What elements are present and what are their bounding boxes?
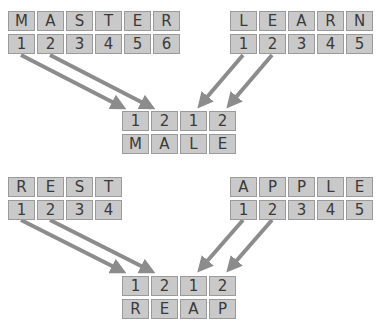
letter-cell: A bbox=[180, 299, 207, 319]
number-cell: 6 bbox=[153, 34, 180, 54]
reap-letters: R E A P bbox=[122, 299, 236, 319]
number-cell: 4 bbox=[95, 200, 122, 220]
number-cell: 2 bbox=[37, 34, 64, 54]
letter-cell: E bbox=[209, 134, 236, 154]
letter-cell: E bbox=[124, 11, 151, 31]
number-cell: 3 bbox=[288, 34, 315, 54]
number-cell: 1 bbox=[230, 34, 257, 54]
learn-letters: L E A R N bbox=[230, 11, 373, 31]
number-cell: 5 bbox=[346, 200, 373, 220]
letter-cell: E bbox=[37, 177, 64, 197]
arrow-master-1 bbox=[21, 55, 120, 106]
letter-cell: L bbox=[317, 177, 344, 197]
number-cell: 3 bbox=[66, 34, 93, 54]
apple-letters: A P P L E bbox=[230, 177, 373, 197]
number-cell: 3 bbox=[66, 200, 93, 220]
number-cell: 4 bbox=[317, 34, 344, 54]
letter-cell: E bbox=[346, 177, 373, 197]
master-numbers: 1 2 3 4 5 6 bbox=[8, 34, 180, 54]
letter-cell: L bbox=[230, 11, 257, 31]
letter-cell: A bbox=[37, 11, 64, 31]
number-cell: 1 bbox=[180, 111, 207, 131]
letter-cell: R bbox=[122, 299, 149, 319]
rest-numbers: 1 2 3 4 bbox=[8, 200, 122, 220]
apple-numbers: 1 2 3 4 5 bbox=[230, 200, 373, 220]
letter-cell: P bbox=[288, 177, 315, 197]
arrow-master-2 bbox=[50, 55, 149, 106]
master-letters: M A S T E R bbox=[8, 11, 180, 31]
number-cell: 2 bbox=[209, 111, 236, 131]
number-cell: 2 bbox=[259, 34, 286, 54]
number-cell: 2 bbox=[259, 200, 286, 220]
letter-cell: N bbox=[346, 11, 373, 31]
number-cell: 4 bbox=[317, 200, 344, 220]
number-cell: 1 bbox=[122, 111, 149, 131]
number-cell: 1 bbox=[8, 200, 35, 220]
letter-cell: M bbox=[8, 11, 35, 31]
letter-cell: R bbox=[153, 11, 180, 31]
letter-cell: L bbox=[180, 134, 207, 154]
male-letters: M A L E bbox=[122, 134, 236, 154]
number-cell: 2 bbox=[37, 200, 64, 220]
male-numbers: 1 2 1 2 bbox=[122, 111, 236, 131]
letter-cell: P bbox=[259, 177, 286, 197]
number-cell: 2 bbox=[151, 111, 178, 131]
number-cell: 1 bbox=[8, 34, 35, 54]
learn-numbers: 1 2 3 4 5 bbox=[230, 34, 373, 54]
arrow-rest-2 bbox=[50, 220, 149, 270]
reap-numbers: 1 2 1 2 bbox=[122, 276, 236, 296]
rest-letters: R E S T bbox=[8, 177, 122, 197]
number-cell: 2 bbox=[151, 276, 178, 296]
arrow-rest-1 bbox=[21, 220, 120, 270]
letter-cell: A bbox=[151, 134, 178, 154]
letter-cell: T bbox=[95, 177, 122, 197]
letter-cell: R bbox=[8, 177, 35, 197]
letter-cell: T bbox=[95, 11, 122, 31]
number-cell: 5 bbox=[346, 34, 373, 54]
letter-cell: E bbox=[151, 299, 178, 319]
number-cell: 1 bbox=[230, 200, 257, 220]
letter-cell: E bbox=[259, 11, 286, 31]
number-cell: 3 bbox=[288, 200, 315, 220]
number-cell: 4 bbox=[95, 34, 122, 54]
number-cell: 1 bbox=[122, 276, 149, 296]
letter-cell: S bbox=[66, 177, 93, 197]
letter-cell: A bbox=[288, 11, 315, 31]
number-cell: 1 bbox=[180, 276, 207, 296]
letter-cell: R bbox=[317, 11, 344, 31]
number-cell: 5 bbox=[124, 34, 151, 54]
letter-cell: A bbox=[230, 177, 257, 197]
letter-cell: S bbox=[66, 11, 93, 31]
letter-cell: P bbox=[209, 299, 236, 319]
letter-cell: M bbox=[122, 134, 149, 154]
number-cell: 2 bbox=[209, 276, 236, 296]
